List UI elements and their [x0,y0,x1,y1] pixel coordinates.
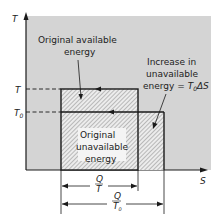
q-over-t0-den: T0 [113,201,122,212]
original-unavailable-label-1: Original [80,130,115,140]
t-tick-label: T [15,85,22,95]
original-unavailable-label-3: energy [85,154,117,164]
t-axis-label: T [12,14,19,24]
t0-tick-label: T0 [14,108,24,119]
original-unavailable-label-2: unavailable [76,142,128,152]
dim-arrow-icon [62,184,68,189]
s-axis-label: S [200,176,206,186]
increase-label-1: Increase in [147,57,196,67]
q-over-t-num: Q [96,174,103,184]
dim-arrow-icon [131,184,137,189]
original-available-label: Original available [38,35,117,45]
q-over-t0-num: Q [114,191,121,201]
increase-label-2: unavailable [146,69,198,79]
original-available-area [61,89,138,112]
dim-arrow-icon [62,202,68,207]
entropy-diagram: T S T T0 Original available energy Incre… [0,0,221,224]
increase-label-3: energy = T0ΔS [143,81,209,92]
dim-arrow-icon [157,202,163,207]
original-available-label-2: energy [64,47,96,57]
q-over-t-den: T [96,184,103,194]
